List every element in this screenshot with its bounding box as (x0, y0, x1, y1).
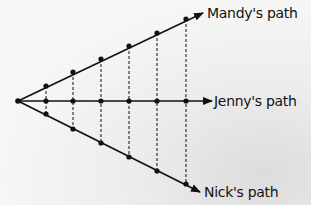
jenny-point (154, 98, 159, 103)
nick-point (126, 154, 131, 159)
mandy-point (154, 30, 159, 35)
nick-point (70, 126, 75, 131)
label-jennys-path: Jenny's path (214, 94, 297, 108)
label-nicks-path: Nick's path (204, 185, 278, 199)
mandy-point (43, 83, 48, 88)
mandy-point (126, 43, 131, 48)
nick-point (43, 111, 48, 116)
label-mandys-path: Mandy's path (207, 6, 298, 20)
mandy-point (183, 16, 188, 21)
jenny-point (98, 98, 103, 103)
diagram-canvas: Mandy's path Jenny's path Nick's path (0, 0, 311, 205)
origin-point (15, 98, 21, 104)
jenny-point (43, 98, 48, 103)
nick-point (183, 181, 188, 186)
jenny-point (183, 98, 188, 103)
mandy-point (70, 69, 75, 74)
jenny-point (126, 98, 131, 103)
nick-point (98, 140, 103, 145)
mandy-point (98, 56, 103, 61)
nick-point (154, 168, 159, 173)
jenny-point (70, 98, 75, 103)
